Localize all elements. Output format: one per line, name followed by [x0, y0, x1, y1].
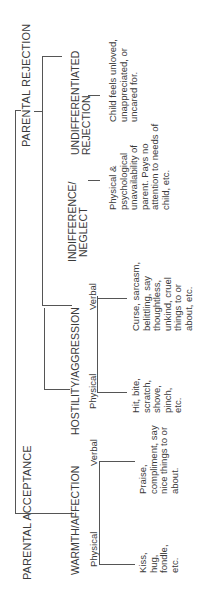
indifference-label-line2: NEGLECT: [78, 181, 89, 262]
undifferentiated-leaf-tick: [88, 95, 100, 96]
undifferentiated-label-line2: REJECTION: [81, 51, 92, 155]
hostility-branch-line: [44, 308, 45, 390]
hostility-verbal-tick: [97, 298, 127, 299]
hostility-verbal-label: Verbal: [88, 283, 98, 310]
parenting-tree-diagram: PARENTAL REJECTION PARENTAL ACCEPTANCE U…: [0, 0, 212, 611]
acceptance-stem-line: [21, 513, 74, 514]
indifference-leaf-tick: [88, 180, 100, 181]
warmth-physical-tick: [99, 564, 135, 565]
root-tick-rejection: [15, 110, 21, 111]
warmth-verbal-description: Praise, compliment, say nice things to o…: [138, 424, 180, 494]
warmth-physical-label: Physical: [89, 532, 99, 567]
indifference-neglect-heading: INDIFFERENCE/ NEGLECT: [67, 181, 89, 262]
undifferentiated-tick: [42, 56, 62, 57]
undifferentiated-rejection-heading: UNDIFFERENTIATED REJECTION: [70, 51, 92, 155]
warmth-affection-heading: WARMTH/AFFECTION: [70, 466, 81, 575]
rejection-branch-line: [42, 56, 43, 306]
parental-rejection-label: PARENTAL REJECTION: [21, 24, 32, 147]
warmth-verbal-label: Verbal: [89, 439, 99, 466]
warmth-verbal-tick: [99, 461, 135, 462]
undifferentiated-description: Child feels unloved, unappreciated, or u…: [108, 30, 140, 122]
hostility-verbal-description: Curse, sarcasm, belittling, say thoughtl…: [131, 255, 194, 331]
rejection-stem-line: [34, 111, 42, 112]
hostility-physical-description: Hit, bite, scratch, shove, pinch, etc.: [131, 371, 184, 413]
hostility-aggression-heading: HOSTILITY/AGGRESSION: [70, 307, 81, 435]
indifference-tick: [42, 305, 72, 306]
hostility-physical-tick: [97, 392, 127, 393]
indifference-description: Physical & psychological unavailability …: [108, 122, 171, 210]
root-connector-line: [15, 110, 16, 514]
warmth-sub-line: [99, 462, 100, 565]
hostility-tick: [44, 389, 70, 390]
warmth-physical-description: Kiss, hug, fondle, etc.: [138, 539, 180, 573]
